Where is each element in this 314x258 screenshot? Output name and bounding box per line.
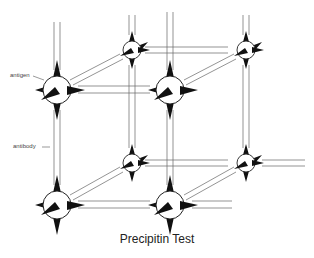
antibody-pipes [54, 12, 305, 208]
antigen-node-back-bottom-right [234, 144, 264, 182]
antigen-label: antigen [10, 72, 30, 78]
antibody-label: antibody [13, 143, 36, 149]
figure-caption: Precipitin Test [0, 232, 314, 246]
antigen-nodes [35, 31, 264, 235]
antigen-node-back-top-left [120, 31, 150, 69]
antigen-node-back-top-right [234, 31, 264, 69]
precipitin-lattice-diagram [0, 0, 314, 258]
antigen-node-back-bottom-left [120, 144, 150, 182]
